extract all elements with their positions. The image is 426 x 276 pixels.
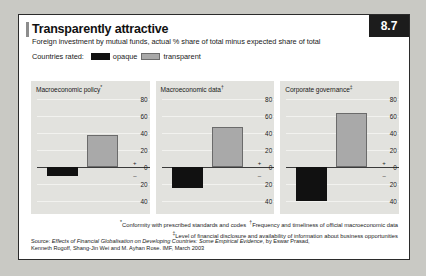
y-axis-tick-label: 20 xyxy=(265,147,272,154)
y-axis-tick-label: 80 xyxy=(140,96,147,103)
footnote-line-1: *Conformity with prescribed standards an… xyxy=(120,219,398,230)
panel-title-marker-3: ‡ xyxy=(350,84,353,90)
status-badge: 8.7 xyxy=(369,15,409,37)
bar-transparent xyxy=(212,127,243,168)
y-axis-tick-label: 0 xyxy=(144,164,148,171)
gridline xyxy=(162,116,275,117)
panel-title-marker-2: † xyxy=(221,84,224,90)
legend-item-opaque-label: opaque xyxy=(113,52,138,61)
bar-opaque xyxy=(296,167,327,201)
plot-area-2: 8060402002040+– xyxy=(162,95,255,210)
gridline xyxy=(286,99,399,100)
legend-item-transparent: transparent xyxy=(141,52,200,61)
footnote-text-2: Frequency and timeliness of official mac… xyxy=(252,222,398,228)
chart-panel-2: Macroeconomic data†8060402002040+– xyxy=(156,81,275,214)
footnote-text-1: Conformity with prescribed standards and… xyxy=(122,222,246,228)
bar-opaque xyxy=(47,167,78,176)
gridline xyxy=(37,184,150,185)
bar-opaque xyxy=(172,167,203,187)
title-rule xyxy=(26,22,29,37)
y-axis-tick-label: 60 xyxy=(390,113,397,120)
legend-swatch-transparent xyxy=(141,53,160,60)
chart-header: Transparently attractive Foreign investm… xyxy=(19,15,409,61)
chart-panel-3: Corporate governance‡8060402002040+– xyxy=(280,81,399,214)
source-title: Effects of Financial Globalisation on De… xyxy=(52,238,263,244)
legend-item-opaque: opaque xyxy=(91,52,138,61)
y-axis-tick-label: 40 xyxy=(390,198,397,205)
bar-transparent xyxy=(336,113,367,168)
source-note: Source: Effects of Financial Globalisati… xyxy=(31,238,331,252)
y-axis-tick-label: 40 xyxy=(265,198,272,205)
bar-transparent xyxy=(87,135,118,167)
y-axis-tick-label: 80 xyxy=(265,96,272,103)
page-title: Transparently attractive xyxy=(32,22,399,36)
y-axis-tick-label: 80 xyxy=(390,96,397,103)
axis-plus-sign: + xyxy=(133,160,137,166)
chart-card: Transparently attractive Foreign investm… xyxy=(18,14,410,260)
source-prefix: Source: xyxy=(31,238,52,244)
axis-minus-sign: – xyxy=(133,173,136,179)
legend-swatch-opaque xyxy=(91,53,110,60)
panel-title-1: Macroeconomic policy* xyxy=(36,84,102,93)
chart-panel-1: Macroeconomic policy*8060402002040+– xyxy=(31,81,150,214)
gridline xyxy=(286,201,399,202)
gridline xyxy=(162,99,275,100)
axis-plus-sign: + xyxy=(258,160,262,166)
plot-area-3: 8060402002040+– xyxy=(286,95,379,210)
y-axis-tick-label: 60 xyxy=(140,113,147,120)
y-axis-tick-label: 40 xyxy=(140,130,147,137)
legend: Countries rated: opaque transparent xyxy=(32,52,399,61)
y-axis-tick-label: 20 xyxy=(140,147,147,154)
plot-area-1: 8060402002040+– xyxy=(37,95,130,210)
gridline xyxy=(162,201,275,202)
y-axis-tick-label: 20 xyxy=(265,181,272,188)
y-axis-tick-label: 20 xyxy=(140,181,147,188)
gridline xyxy=(37,201,150,202)
legend-item-transparent-label: transparent xyxy=(163,52,200,61)
axis-minus-sign: – xyxy=(258,173,261,179)
panel-title-marker-1: * xyxy=(100,84,102,90)
y-axis-tick-label: 0 xyxy=(269,164,273,171)
y-axis-tick-label: 40 xyxy=(390,130,397,137)
chart-subtitle: Foreign investment by mutual funds, actu… xyxy=(32,37,399,47)
y-axis-tick-label: 20 xyxy=(390,181,397,188)
y-axis-tick-label: 20 xyxy=(390,147,397,154)
y-axis-tick-label: 0 xyxy=(393,164,397,171)
panel-title-2: Macroeconomic data† xyxy=(161,84,224,93)
y-axis-tick-label: 60 xyxy=(265,113,272,120)
gridline xyxy=(37,116,150,117)
y-axis-tick-label: 40 xyxy=(140,198,147,205)
panel-title-3: Corporate governance‡ xyxy=(285,84,352,93)
legend-label: Countries rated: xyxy=(32,52,84,61)
axis-minus-sign: – xyxy=(382,173,385,179)
chart-panels: Macroeconomic policy*8060402002040+–Macr… xyxy=(31,81,399,214)
footnotes: *Conformity with prescribed standards an… xyxy=(120,219,398,240)
y-axis-tick-label: 40 xyxy=(265,130,272,137)
axis-plus-sign: + xyxy=(382,160,386,166)
gridline xyxy=(37,99,150,100)
